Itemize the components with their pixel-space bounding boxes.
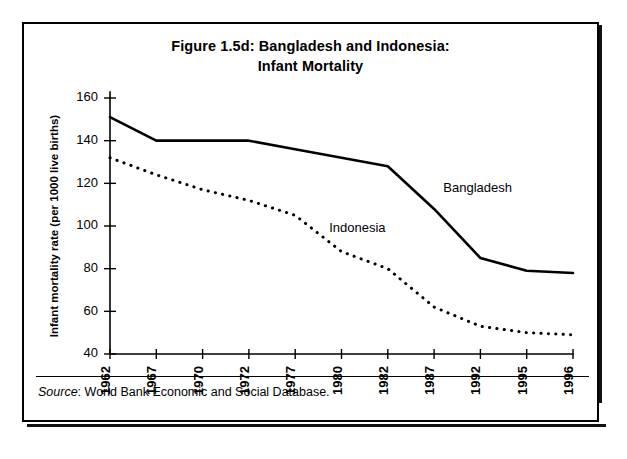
frame-shadow	[599, 25, 602, 403]
line-chart: Infant mortality rate (per 1000 live bir…	[24, 24, 601, 424]
x-tick-label: 1995	[515, 366, 530, 395]
source-divider	[36, 376, 589, 377]
source-label: Source	[38, 385, 78, 399]
source-note: Source: World Bank Economic and Social D…	[38, 385, 330, 399]
y-tick-label: 80	[84, 260, 98, 275]
y-tick-label: 120	[76, 175, 98, 190]
x-tick-label: 1982	[376, 366, 391, 395]
y-axis-title-label: Infant mortality rate (per 1000 live bir…	[48, 115, 60, 338]
x-tick-label: 1996	[561, 366, 576, 395]
y-axis-title: Infant mortality rate (per 1000 live bir…	[48, 115, 60, 338]
x-tick-label: 1987	[422, 366, 437, 395]
y-tick-label: 40	[84, 345, 98, 360]
x-tick-label: 1992	[468, 366, 483, 395]
annotation-bangladesh: Bangladesh	[443, 180, 512, 195]
series-annotations: BangladeshIndonesia	[329, 180, 512, 236]
y-tick-label: 160	[76, 89, 98, 104]
figure-container: Figure 1.5d: Bangladesh and Indonesia: I…	[22, 22, 599, 422]
y-tick-label: 140	[76, 132, 98, 147]
x-tick-label: 1980	[330, 366, 345, 395]
source-text: : World Bank Economic and Social Databas…	[78, 385, 330, 399]
annotation-indonesia: Indonesia	[329, 220, 386, 235]
y-tick-label: 100	[76, 217, 98, 232]
y-tick-label: 60	[84, 303, 98, 318]
plot-area: Infant mortality rate (per 1000 live bir…	[24, 24, 601, 424]
series-line-bangladesh	[110, 117, 573, 273]
